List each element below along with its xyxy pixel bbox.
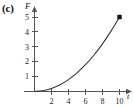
figure-panel: (c) F t 1 2 3 4 5 2 4 6 8 10 [0,0,134,108]
x-axis-arrowhead [126,89,132,94]
plot-area: 1 2 3 4 5 2 4 6 8 10 [0,0,134,108]
y-tick-label-3: 3 [25,43,29,52]
data-curve [35,17,120,92]
x-tick-label-2: 2 [50,97,54,106]
y-tick-label-2: 2 [25,57,29,66]
y-tick-label-5: 5 [25,13,29,22]
x-tick-label-8: 8 [101,97,105,106]
y-tick-label-1: 1 [25,72,29,81]
x-tick-label-4: 4 [67,97,71,106]
endpoint-marker [117,15,121,19]
y-tick-label-4: 4 [25,28,29,37]
x-tick-label-6: 6 [84,97,88,106]
x-tick-label-10: 10 [116,97,124,106]
y-axis-arrowhead [32,6,37,12]
